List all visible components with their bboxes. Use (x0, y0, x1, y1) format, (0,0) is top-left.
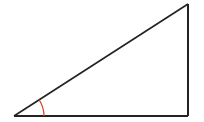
triangle-hypotenuse (14, 4, 188, 116)
angle-arc-marker (39, 100, 44, 116)
triangle-diagram (0, 0, 204, 122)
